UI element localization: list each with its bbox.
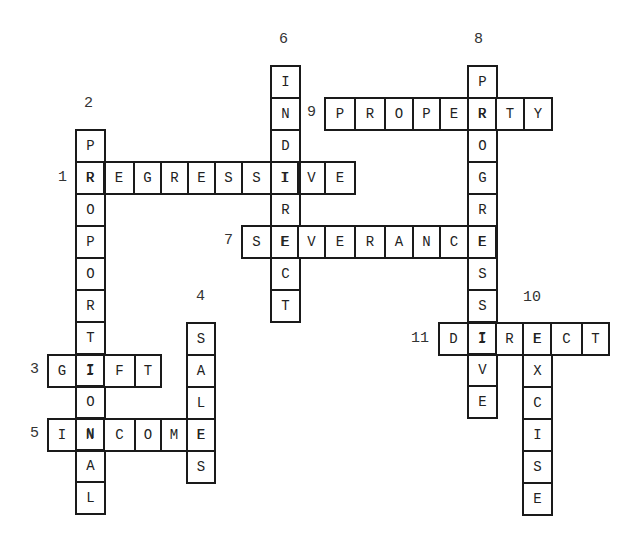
crossword-cell-8-down-8[interactable]: S [467,289,498,323]
clue-number-1: 1 [58,170,67,185]
crossword-cell-8-down-5[interactable]: R [467,193,498,227]
crossword-cell-2-down-2[interactable]: R [75,161,106,195]
crossword-cell-4-down-2[interactable]: A [186,354,216,388]
clue-number-8: 8 [474,32,483,47]
crossword-cell-7-across-2[interactable]: E [270,225,299,259]
crossword-cell-1-across-7[interactable]: S [241,161,272,195]
crossword-cell-6-down-5[interactable]: R [270,193,301,227]
crossword-cell-9-across-4[interactable]: P [412,97,441,131]
crossword-cell-11-across-5[interactable]: C [550,322,583,356]
crossword-cell-2-down-1[interactable]: P [75,129,106,163]
crossword-cell-8-down-10[interactable]: V [467,353,498,387]
crossword-cell-1-across-5[interactable]: E [187,161,216,195]
crossword-cell-5-across-5[interactable]: M [160,418,188,452]
crossword-cell-6-down-7[interactable]: C [270,257,301,291]
crossword-cell-7-across-8[interactable]: C [439,225,469,259]
crossword-cell-8-down-7[interactable]: S [467,257,498,291]
crossword-cell-11-across-6[interactable]: T [581,322,610,356]
crossword-cell-3-across-3[interactable]: F [103,354,136,388]
crossword-cell-2-down-12[interactable]: L [75,481,106,515]
crossword-cell-2-down-4[interactable]: P [75,225,106,259]
crossword-cell-2-down-6[interactable]: R [75,289,106,323]
crossword-cell-4-down-5[interactable]: S [186,450,216,484]
crossword-cell-8-down-6[interactable]: E [467,225,498,259]
crossword-cell-4-down-3[interactable]: L [186,386,216,420]
crossword-cell-6-down-1[interactable]: I [270,65,301,99]
clue-number-10: 10 [523,290,541,305]
clue-number-4: 4 [196,289,205,304]
crossword-cell-9-across-3[interactable]: O [384,97,414,131]
crossword-cell-1-across-2[interactable]: E [103,161,135,195]
crossword-cell-9-across-8[interactable]: Y [523,97,553,131]
crossword-cell-9-across-2[interactable]: R [354,97,386,131]
crossword-cell-2-down-9[interactable]: O [75,385,106,419]
crossword-cell-11-across-3[interactable]: R [495,322,524,356]
crossword-cell-10-down-4[interactable]: I [522,418,553,452]
crossword-cell-10-down-3[interactable]: C [522,386,553,420]
crossword-cell-8-down-11[interactable]: E [467,385,498,419]
clue-number-3: 3 [30,362,39,377]
crossword-cell-7-across-5[interactable]: R [354,225,386,259]
crossword-cell-11-across-1[interactable]: D [438,322,469,356]
crossword-cell-7-across-3[interactable]: V [297,225,326,259]
crossword-cell-6-down-3[interactable]: D [270,129,301,163]
clue-number-2: 2 [84,96,93,111]
clue-number-6: 6 [279,32,288,47]
crossword-cell-9-across-7[interactable]: T [495,97,525,131]
crossword-cell-9-across-6[interactable]: R [467,97,497,131]
crossword-cell-1-across-6[interactable]: S [214,161,243,195]
clue-number-9: 9 [307,105,316,120]
crossword-cell-3-across-1[interactable]: G [47,354,77,388]
clue-number-5: 5 [30,426,39,441]
crossword-cell-3-across-4[interactable]: T [134,354,162,388]
crossword-cell-2-down-3[interactable]: O [75,193,106,227]
crossword-cell-9-across-5[interactable]: E [439,97,469,131]
crossword-cell-1-across-10[interactable]: E [324,161,356,195]
crossword-cell-4-down-1[interactable]: S [186,322,216,356]
crossword-puzzle: 1REGRESSIVE2PROPORTIONAL3GIFT4SALES5INCO… [0,0,642,542]
crossword-cell-11-across-2[interactable]: I [467,322,497,356]
crossword-cell-2-down-5[interactable]: O [75,257,106,291]
clue-number-7: 7 [224,233,233,248]
crossword-cell-1-across-4[interactable]: R [160,161,189,195]
crossword-cell-5-across-2[interactable]: N [75,418,105,452]
crossword-cell-10-down-6[interactable]: E [522,482,553,516]
crossword-cell-5-across-4[interactable]: O [134,418,162,452]
crossword-cell-3-across-2[interactable]: I [75,354,105,388]
crossword-cell-1-across-3[interactable]: G [133,161,162,195]
crossword-cell-5-across-1[interactable]: I [47,418,77,452]
crossword-cell-8-down-1[interactable]: P [467,65,498,99]
crossword-cell-7-across-4[interactable]: E [324,225,356,259]
crossword-cell-10-down-2[interactable]: X [522,354,553,388]
crossword-cell-7-across-7[interactable]: N [412,225,441,259]
crossword-cell-2-down-11[interactable]: A [75,449,106,483]
crossword-cell-6-down-8[interactable]: T [270,289,301,323]
crossword-cell-8-down-4[interactable]: G [467,161,498,195]
crossword-cell-9-across-1[interactable]: P [324,97,356,131]
crossword-cell-11-across-4[interactable]: E [522,322,552,356]
crossword-cell-6-down-4[interactable]: I [270,161,301,195]
crossword-cell-8-down-3[interactable]: O [467,129,498,163]
crossword-cell-5-across-3[interactable]: C [103,418,136,452]
crossword-cell-6-down-2[interactable]: N [270,97,301,131]
crossword-cell-2-down-7[interactable]: T [75,321,106,355]
crossword-cell-1-across-9[interactable]: V [297,161,326,195]
clue-number-11: 11 [411,331,429,346]
crossword-cell-5-across-6[interactable]: E [186,418,216,452]
crossword-cell-7-across-1[interactable]: S [241,225,272,259]
crossword-cell-7-across-6[interactable]: A [384,225,414,259]
crossword-cell-10-down-5[interactable]: S [522,450,553,484]
